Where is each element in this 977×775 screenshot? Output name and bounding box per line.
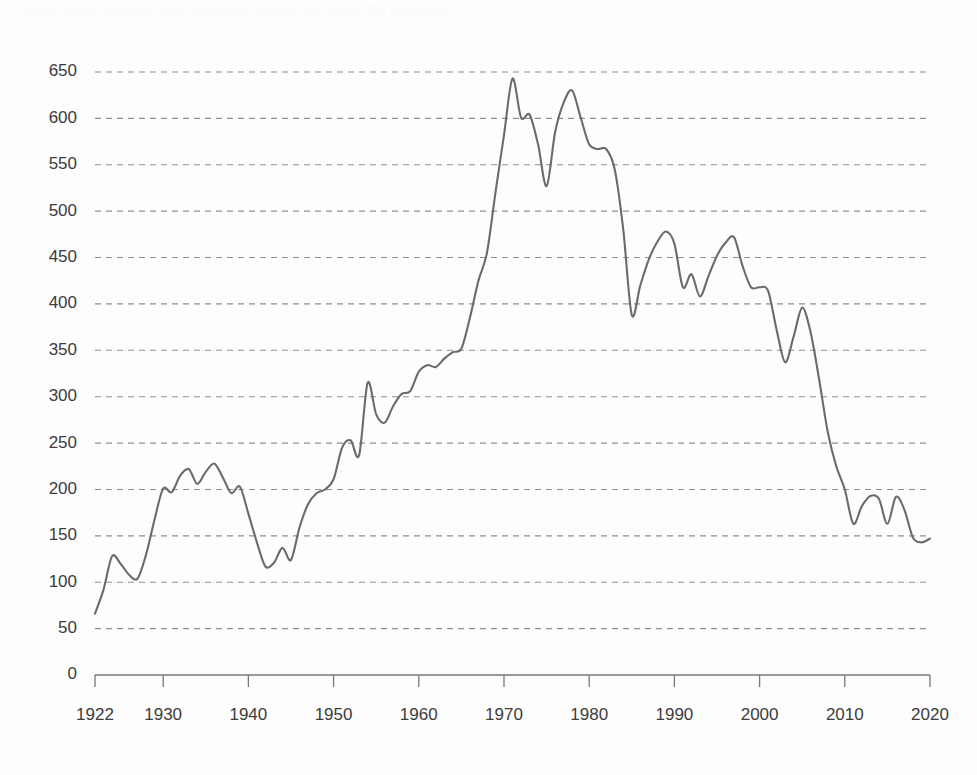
y-tick-label-150: 150 [49, 525, 77, 544]
line-chart-plot: 050100150200250300350400450500550600650 … [0, 0, 977, 775]
x-tick-label-2020: 2020 [911, 705, 949, 724]
x-tick-label-1980: 1980 [570, 705, 608, 724]
x-tick-label-2010: 2010 [826, 705, 864, 724]
x-axis-tick-labels: 1922193019401950196019701980199020002010… [76, 705, 949, 724]
y-tick-label-50: 50 [58, 618, 77, 637]
x-tick-label-2000: 2000 [741, 705, 779, 724]
chart-container: Some series title and some other faint h… [0, 0, 977, 775]
y-tick-label-200: 200 [49, 479, 77, 498]
y-tick-label-650: 650 [49, 61, 77, 80]
gridlines-group [95, 72, 930, 629]
y-tick-label-350: 350 [49, 340, 77, 359]
y-tick-label-550: 550 [49, 154, 77, 173]
y-tick-label-100: 100 [49, 572, 77, 591]
data-series-group [95, 78, 930, 613]
x-tick-label-1940: 1940 [229, 705, 267, 724]
x-tick-label-1922: 1922 [76, 705, 114, 724]
y-tick-label-450: 450 [49, 247, 77, 266]
axes-group [95, 675, 930, 687]
y-tick-label-500: 500 [49, 201, 77, 220]
x-tick-label-1970: 1970 [485, 705, 523, 724]
y-tick-label-300: 300 [49, 386, 77, 405]
x-tick-label-1930: 1930 [144, 705, 182, 724]
y-tick-label-0: 0 [68, 664, 77, 683]
x-tick-label-1990: 1990 [655, 705, 693, 724]
y-axis-tick-labels: 050100150200250300350400450500550600650 [49, 61, 77, 683]
x-tick-label-1960: 1960 [400, 705, 438, 724]
y-tick-label-250: 250 [49, 433, 77, 452]
y-tick-label-400: 400 [49, 293, 77, 312]
data-line-series-1 [95, 78, 930, 613]
x-tick-label-1950: 1950 [315, 705, 353, 724]
y-tick-label-600: 600 [49, 108, 77, 127]
